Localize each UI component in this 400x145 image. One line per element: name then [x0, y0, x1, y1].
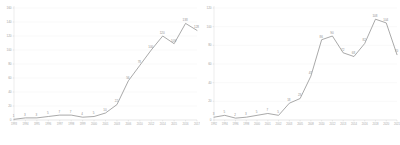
- x-axis-tick-label: 2003: [286, 122, 292, 126]
- data-point-label: 5: [256, 110, 258, 114]
- x-axis-tick-label: 2000: [254, 122, 260, 126]
- data-point-label: 3: [24, 113, 26, 117]
- data-point-label: 5: [47, 111, 49, 115]
- x-axis-tick-label: 2002: [276, 122, 282, 126]
- right-chart-xtick-labels: 1992199419961998200020012002200320052008…: [211, 122, 400, 126]
- data-point-label: 18: [287, 98, 291, 102]
- x-axis-tick-label: 2015: [171, 122, 177, 126]
- data-point-label: 47: [309, 71, 313, 75]
- y-axis-tick-label: 60: [8, 76, 12, 80]
- data-point-label: 5: [223, 110, 225, 114]
- data-point-label: 23: [298, 93, 302, 97]
- data-point-label: 7: [70, 110, 72, 114]
- data-point-label: 70: [395, 49, 399, 53]
- x-axis-tick-label: 1994: [222, 122, 228, 126]
- data-point-label: 100: [148, 45, 153, 49]
- right-chart-svg: 020406080100120 199219941996199820002001…: [200, 0, 400, 145]
- x-axis-tick-label: 1997: [57, 122, 63, 126]
- data-point-label: 108: [372, 14, 377, 18]
- x-axis-tick-label: 1995: [34, 122, 40, 126]
- y-axis-tick-label: 20: [208, 99, 212, 103]
- x-axis-tick-label: 1993: [11, 122, 17, 126]
- y-axis-tick-label: 100: [6, 48, 11, 52]
- data-point-label: 78: [138, 60, 142, 64]
- x-axis-tick-label: 2010: [137, 122, 143, 126]
- data-point-label: 120: [160, 31, 165, 35]
- x-axis-tick-label: 1999: [80, 122, 86, 126]
- left-chart-gridlines: [14, 8, 197, 120]
- x-axis-tick-label: 1998: [68, 122, 74, 126]
- x-axis-tick-label: 2014: [160, 122, 166, 126]
- y-axis-tick-label: 0: [210, 118, 212, 122]
- y-axis-tick-label: 40: [8, 90, 12, 94]
- data-point-label: 109: [171, 39, 176, 43]
- y-axis-tick-label: 20: [8, 104, 12, 108]
- left-chart-point-labels: 1335774510225678100120109138128: [13, 18, 200, 118]
- x-axis-tick-label: 1998: [243, 122, 249, 126]
- data-point-label: 7: [266, 108, 268, 112]
- data-point-label: 7: [58, 110, 60, 114]
- series-line-path: [14, 23, 197, 119]
- right-chart-axes: [213, 6, 397, 121]
- data-point-label: 22: [115, 99, 119, 103]
- x-axis-tick-label: 2001: [265, 122, 271, 126]
- data-point-label: 4: [81, 112, 83, 116]
- data-point-label: 72: [341, 48, 345, 52]
- data-point-label: 3: [213, 112, 215, 116]
- right-chart-panel: 020406080100120 199219941996199820002001…: [200, 0, 400, 145]
- data-point-label: 3: [245, 112, 247, 116]
- data-point-label: 104: [383, 18, 388, 22]
- left-chart-series: [14, 23, 197, 119]
- data-point-label: 2: [234, 113, 236, 117]
- x-axis-tick-label: 2014: [351, 122, 357, 126]
- data-point-label: 56: [126, 76, 130, 80]
- x-axis-tick-label: 2000: [91, 122, 97, 126]
- left-chart-xtick-labels: 1993199419951996199719981999200020012003…: [11, 122, 200, 126]
- x-axis-tick-label: 2005: [297, 122, 303, 126]
- x-axis-tick-label: 1992: [211, 122, 217, 126]
- x-axis-tick-label: 2003: [114, 122, 120, 126]
- y-axis-tick-label: 160: [6, 6, 11, 10]
- left-chart-ytick-labels: 020406080100120140160: [6, 6, 11, 122]
- x-axis-tick-label: 2018: [372, 122, 378, 126]
- right-chart-ytick-labels: 020406080100120: [206, 6, 211, 122]
- data-point-label: 138: [183, 18, 188, 22]
- left-chart-axes: [13, 6, 197, 121]
- x-axis-tick-label: 2020: [383, 122, 389, 126]
- data-point-label: 68: [352, 51, 356, 55]
- data-point-label: 90: [330, 31, 334, 35]
- x-axis-tick-label: 2001: [103, 122, 109, 126]
- data-point-label: 10: [103, 108, 107, 112]
- data-point-label: 86: [319, 35, 323, 39]
- x-axis-tick-label: 2016: [183, 122, 189, 126]
- x-axis-tick-label: 2010: [319, 122, 325, 126]
- y-axis-tick-label: 80: [8, 62, 12, 66]
- x-axis-tick-label: 2008: [308, 122, 314, 126]
- data-point-label: 3: [36, 113, 38, 117]
- y-axis-tick-label: 120: [6, 34, 11, 38]
- y-axis-tick-label: 40: [208, 81, 212, 85]
- left-chart-panel: 020406080100120140160 199319941995199619…: [0, 0, 200, 145]
- y-axis-tick-label: 140: [6, 20, 11, 24]
- x-axis-tick-label: 1994: [22, 122, 28, 126]
- data-point-label: 128: [194, 25, 199, 29]
- x-axis-tick-label: 2012: [329, 122, 335, 126]
- x-axis-tick-label: 2021: [394, 122, 400, 126]
- right-chart-gridlines: [214, 8, 397, 120]
- x-axis-tick-label: 2006: [125, 122, 131, 126]
- x-axis-tick-label: 1996: [233, 122, 239, 126]
- y-axis-tick-label: 120: [206, 6, 211, 10]
- right-chart-series: [214, 19, 397, 118]
- x-axis-tick-label: 1996: [45, 122, 51, 126]
- y-axis-tick-label: 0: [10, 118, 12, 122]
- figure-container: 020406080100120140160 199319941995199619…: [0, 0, 400, 145]
- left-chart-svg: 020406080100120140160 199319941995199619…: [0, 0, 200, 145]
- x-axis-tick-label: 2016: [362, 122, 368, 126]
- y-axis-tick-label: 80: [208, 43, 212, 47]
- series-line-path: [214, 19, 397, 118]
- y-axis-tick-label: 100: [206, 25, 211, 29]
- data-point-label: 82: [363, 38, 367, 42]
- x-axis-tick-label: 2013: [340, 122, 346, 126]
- data-point-label: 5: [93, 111, 95, 115]
- x-axis-tick-label: 2012: [148, 122, 154, 126]
